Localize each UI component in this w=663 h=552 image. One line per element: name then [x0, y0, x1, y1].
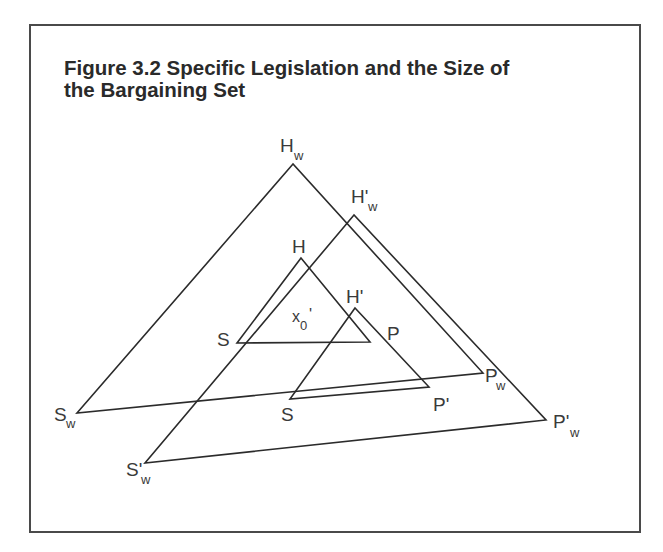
- label-p-prime: P': [433, 394, 449, 415]
- label-hw-sub: w: [293, 148, 304, 163]
- label-x0-sub: 0: [300, 318, 307, 333]
- label-hw-main: H: [280, 135, 294, 156]
- label-pw-prime-sub: w: [569, 425, 580, 440]
- label-sw: S w: [54, 404, 76, 431]
- label-hw-prime-main: H': [351, 186, 368, 207]
- label-x0-main: x: [292, 308, 300, 325]
- bargaining-set-diagram: H w S w P w H' w S' w P' w H S P H' S P'…: [0, 0, 663, 552]
- label-s: S: [217, 329, 230, 350]
- label-p: P: [387, 323, 400, 344]
- outer-triangle-shifted: [145, 215, 546, 463]
- label-s-shifted: S: [281, 404, 294, 425]
- label-sw-prime-main: S': [126, 459, 142, 480]
- label-pw: P w: [485, 365, 506, 393]
- label-sw-sub: w: [65, 416, 76, 431]
- label-h: H: [292, 236, 306, 257]
- label-hw: H w: [280, 135, 304, 163]
- label-pw-prime-main: P': [553, 411, 569, 432]
- label-h-prime: H': [346, 286, 363, 307]
- label-x0-prime: x 0 ': [292, 306, 312, 333]
- label-sw-main: S: [54, 404, 67, 425]
- label-pw-sub: w: [495, 378, 506, 393]
- label-pw-prime: P' w: [553, 411, 580, 440]
- label-sw-prime-sub: w: [140, 472, 151, 487]
- label-hw-prime-sub: w: [367, 199, 378, 214]
- label-x0-prime-mark: ': [309, 306, 312, 323]
- label-hw-prime: H' w: [351, 186, 378, 214]
